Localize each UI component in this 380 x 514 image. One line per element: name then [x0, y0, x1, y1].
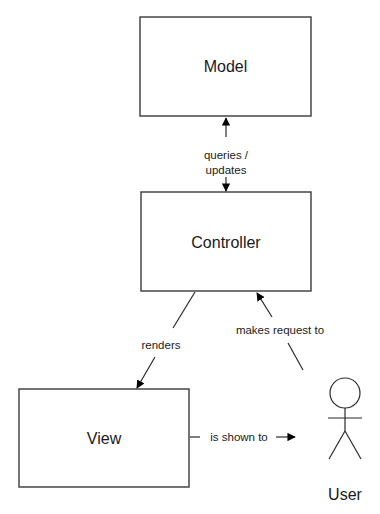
edge-makes-request: makes request to	[236, 293, 324, 370]
actor-left-leg	[329, 431, 345, 459]
edge-renders: renders	[137, 292, 195, 388]
actor-right-leg	[345, 431, 361, 459]
edge-label-renders: renders	[142, 339, 181, 351]
controller-label: Controller	[191, 234, 261, 251]
controller-node: Controller	[141, 192, 311, 291]
model-node: Model	[140, 17, 311, 116]
edge-label-is-shown-to: is shown to	[210, 431, 268, 443]
user-label: User	[328, 486, 362, 503]
edge-is-shown-to: is shown to	[190, 431, 295, 443]
arrow-to-view	[137, 357, 155, 388]
request-line-lower	[288, 343, 303, 370]
arrow-to-controller-from-user	[257, 293, 272, 317]
edge-label-makes-request: makes request to	[236, 324, 324, 336]
mvc-diagram: Model Controller View queries / updates …	[0, 0, 380, 514]
user-actor: User	[328, 378, 363, 503]
edge-label-updates: updates	[206, 164, 247, 176]
view-label: View	[87, 430, 122, 447]
edge-queries-updates: queries / updates	[204, 118, 249, 191]
edge-label-queries: queries /	[204, 149, 249, 161]
actor-head	[330, 378, 360, 408]
renders-line-upper	[173, 292, 195, 328]
view-node: View	[19, 389, 189, 487]
model-label: Model	[204, 58, 248, 75]
